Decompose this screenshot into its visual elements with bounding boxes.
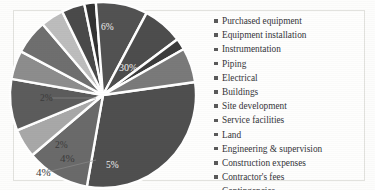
legend-item-label: Construction expenses bbox=[222, 156, 306, 170]
pie-svg bbox=[0, 0, 200, 190]
legend-item-label: Land bbox=[222, 128, 241, 142]
legend-bullet-icon bbox=[214, 33, 218, 37]
legend-item[interactable]: Purchased equipment bbox=[214, 14, 370, 28]
legend-item[interactable]: Buildings bbox=[214, 85, 370, 99]
slice-label-instrumentation: 5% bbox=[106, 160, 119, 170]
pie-chart-figure: 30% 6% 5% 2% 2% 4% 4% Purchased equipmen… bbox=[0, 0, 375, 190]
legend-item[interactable]: Site development bbox=[214, 99, 370, 113]
legend-bullet-icon bbox=[214, 76, 218, 80]
legend-bullet-icon bbox=[214, 48, 218, 52]
legend-item[interactable]: Equipment installation bbox=[214, 28, 370, 42]
legend-bullet-icon bbox=[214, 90, 218, 94]
legend-bullet-icon bbox=[214, 119, 218, 123]
chart-legend: Purchased equipmentEquipment installatio… bbox=[214, 14, 370, 190]
legend-item[interactable]: Electrical bbox=[214, 71, 370, 85]
legend-item[interactable]: Service facilities bbox=[214, 113, 370, 127]
legend-bullet-icon bbox=[214, 147, 218, 151]
legend-bullet-icon bbox=[214, 133, 218, 137]
pie-plot-area: 30% 6% 5% 2% 2% 4% 4% bbox=[0, 0, 200, 190]
legend-item-label: Equipment installation bbox=[222, 28, 306, 42]
legend-bullet-icon bbox=[214, 19, 218, 23]
legend-item[interactable]: Land bbox=[214, 128, 370, 142]
legend-item[interactable]: Contractor's fees bbox=[214, 170, 370, 184]
slice-label-purchased-equipment: 30% bbox=[119, 62, 137, 73]
legend-item-label: Contractor's fees bbox=[222, 170, 284, 184]
legend-item-label: Purchased equipment bbox=[222, 14, 302, 28]
legend-item-label: Site development bbox=[222, 99, 287, 113]
slice-label-site-development: 4% bbox=[36, 166, 51, 178]
legend-bullet-icon bbox=[214, 104, 218, 108]
legend-item[interactable]: Instrumentation bbox=[214, 42, 370, 56]
legend-item[interactable]: Piping bbox=[214, 57, 370, 71]
legend-bullet-icon bbox=[214, 175, 218, 179]
slice-label-contractors-fees: 2% bbox=[55, 140, 68, 150]
legend-item[interactable]: Contingencies bbox=[214, 184, 370, 190]
slice-label-land: 2% bbox=[40, 93, 53, 103]
legend-bullet-icon bbox=[214, 62, 218, 66]
legend-item-label: Buildings bbox=[222, 85, 258, 99]
slice-label-service-facilities: 4% bbox=[60, 152, 75, 164]
legend-item[interactable]: Construction expenses bbox=[214, 156, 370, 170]
legend-item-label: Piping bbox=[222, 57, 246, 71]
legend-item-label: Instrumentation bbox=[222, 42, 281, 56]
legend-bullet-icon bbox=[214, 161, 218, 165]
legend-item-label: Service facilities bbox=[222, 113, 284, 127]
legend-item[interactable]: Engineering & supervision bbox=[214, 142, 370, 156]
legend-item-label: Engineering & supervision bbox=[222, 142, 322, 156]
slice-label-contingencies: 6% bbox=[101, 22, 114, 32]
legend-item-label: Electrical bbox=[222, 71, 258, 85]
legend-item-label: Contingencies bbox=[222, 184, 275, 190]
